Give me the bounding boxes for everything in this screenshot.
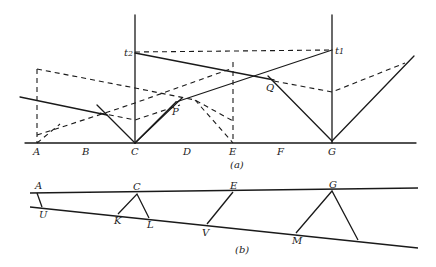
label-p: P (172, 107, 179, 117)
strut-m-g (296, 191, 358, 240)
label-e: E (229, 147, 236, 157)
solid-g-right (332, 56, 414, 141)
label-b-e: E (230, 181, 237, 191)
label-b-g: G (329, 180, 337, 190)
solid-left (20, 97, 107, 115)
label-b: B (82, 147, 89, 157)
dashed-to-e (195, 100, 233, 143)
label-b-a: A (35, 181, 42, 191)
label-b-c: C (133, 182, 141, 192)
label-g: G (328, 147, 336, 157)
label-b-l: L (147, 220, 154, 230)
label-b-u: U (39, 210, 47, 220)
solid-c-ext (135, 98, 182, 143)
caption-b: (b) (235, 245, 249, 255)
solid-v-c (97, 105, 135, 143)
dashed-dip-c (100, 105, 180, 120)
label-a: A (33, 147, 40, 157)
solid-q-g (268, 76, 332, 141)
strut-e-v (207, 192, 233, 224)
label-t1: t1 (335, 46, 344, 56)
label-b-k: K (114, 216, 121, 226)
diagram-drawing (0, 0, 436, 267)
label-b-m: M (292, 236, 302, 246)
label-q: Q (266, 83, 274, 93)
label-d: D (183, 147, 191, 157)
dashed-q-g-right (274, 63, 405, 92)
top-line-b (30, 188, 418, 193)
strut-a-u (37, 193, 42, 207)
label-f: F (277, 147, 284, 157)
strut-k-c-l (118, 194, 149, 218)
label-t2: t2 (124, 48, 133, 58)
caption-a: (a) (230, 160, 244, 170)
diagram-figure: A B C D E F G P Q t2 t1 (a) A C E G U K … (0, 0, 436, 267)
dashed-t2-t1 (135, 50, 332, 52)
label-c: C (131, 147, 139, 157)
label-b-v: V (202, 228, 209, 238)
solid-p-t1 (176, 50, 332, 102)
bottom-line-b (30, 207, 418, 248)
